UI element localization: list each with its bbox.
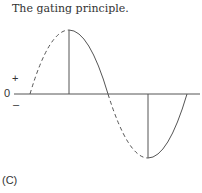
dashed-rise [30,30,69,94]
solid-fall [69,30,108,94]
solid-return [148,94,187,158]
dashed-descent [108,94,148,158]
sine-wave-diagram [0,0,202,193]
